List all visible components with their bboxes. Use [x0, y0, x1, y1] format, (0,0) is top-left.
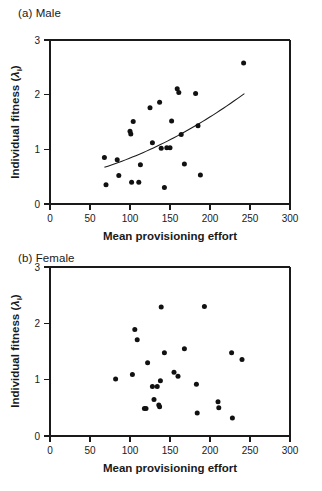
data-point — [157, 404, 162, 409]
data-point — [116, 173, 121, 178]
data-point — [128, 132, 133, 137]
x-tick-label: 150 — [162, 213, 179, 224]
data-point — [150, 140, 155, 145]
y-tick-label: 1 — [34, 144, 40, 155]
svg-text:Individual fitness (λi): Individual fitness (λi) — [9, 65, 24, 179]
data-point — [162, 185, 167, 190]
data-point — [179, 132, 184, 137]
x-tick-label: 150 — [162, 445, 179, 456]
data-point — [138, 162, 143, 167]
data-point — [157, 100, 162, 105]
lambda-symbol: λ — [9, 71, 21, 78]
y-ticks-male — [44, 40, 50, 204]
y-axis-title-close: ) — [9, 65, 21, 69]
scatter-plot-female: 0 50 100 150 200 250 300 0 1 2 3 Mean pr… — [0, 245, 322, 491]
data-point — [194, 382, 199, 387]
data-point — [152, 397, 157, 402]
x-tick-label: 50 — [84, 213, 96, 224]
x-tick-label: 0 — [47, 445, 53, 456]
x-tick-label: 0 — [47, 213, 53, 224]
x-tick-label: 300 — [282, 445, 299, 456]
data-point — [176, 374, 181, 379]
y-axis-title-close: ) — [9, 294, 21, 298]
x-axis-title-male: Mean provisioning effort — [103, 230, 237, 242]
data-point — [155, 384, 160, 389]
data-point — [148, 105, 153, 110]
data-point — [240, 357, 245, 362]
data-point — [115, 157, 120, 162]
panel-female: (b) Female 0 50 100 150 200 250 300 — [0, 245, 322, 491]
data-point — [136, 180, 141, 185]
lambda-symbol: λ — [9, 300, 21, 307]
data-points-female — [113, 304, 244, 421]
data-point — [216, 399, 221, 404]
x-tick-label: 100 — [122, 445, 139, 456]
data-point — [129, 180, 134, 185]
x-tick-label: 50 — [84, 445, 96, 456]
x-tick-label: 200 — [202, 445, 219, 456]
data-point — [172, 370, 177, 375]
y-ticks-female — [44, 267, 50, 436]
data-point — [169, 118, 174, 123]
svg-text:Individual fitness (λi): Individual fitness (λi) — [9, 294, 24, 408]
data-point — [195, 410, 200, 415]
data-point — [241, 60, 246, 65]
x-tick-label: 100 — [122, 213, 139, 224]
data-point — [159, 305, 164, 310]
y-tick-label: 3 — [34, 262, 40, 273]
y-tick-label: 0 — [34, 431, 40, 442]
data-point — [182, 162, 187, 167]
y-axis-title-text: Individual fitness ( — [9, 78, 21, 179]
x-ticks-male — [50, 204, 290, 210]
data-point — [158, 378, 163, 383]
y-tick-label: 2 — [34, 89, 40, 100]
data-point — [162, 350, 167, 355]
y-tick-label: 0 — [34, 199, 40, 210]
plot-frame-female — [50, 267, 290, 436]
data-point — [132, 327, 137, 332]
data-point — [168, 145, 173, 150]
data-point — [216, 405, 221, 410]
data-point — [196, 123, 201, 128]
data-point — [176, 90, 181, 95]
data-point — [113, 377, 118, 382]
y-axis-title-text: Individual fitness ( — [9, 307, 21, 408]
y-axis-title-female: Individual fitness (λi) — [9, 294, 24, 408]
data-point — [198, 173, 203, 178]
x-tick-label: 250 — [242, 445, 259, 456]
data-point — [202, 304, 207, 309]
x-tick-label: 250 — [242, 213, 259, 224]
data-point — [135, 337, 140, 342]
y-axis-title-male: Individual fitness (λi) — [9, 65, 24, 179]
x-tick-labels-female: 0 50 100 150 200 250 300 — [47, 445, 299, 456]
data-point — [193, 91, 198, 96]
y-tick-labels-female: 0 1 2 3 — [34, 262, 40, 442]
data-point — [130, 372, 135, 377]
data-point — [102, 155, 107, 160]
data-point — [182, 346, 187, 351]
x-tick-label: 200 — [202, 213, 219, 224]
data-point — [131, 119, 136, 124]
data-point — [229, 350, 234, 355]
y-tick-label: 1 — [34, 374, 40, 385]
x-axis-title-female: Mean provisioning effort — [103, 462, 237, 474]
data-point — [230, 415, 235, 420]
x-tick-label: 300 — [282, 213, 299, 224]
x-ticks-female — [50, 436, 290, 442]
data-point — [159, 146, 164, 151]
data-point — [150, 384, 155, 389]
data-point — [145, 360, 150, 365]
data-points-male — [102, 60, 246, 190]
y-tick-labels-male: 0 1 2 3 — [34, 35, 40, 210]
y-tick-label: 2 — [34, 318, 40, 329]
y-tick-label: 3 — [34, 35, 40, 46]
data-point — [104, 182, 109, 187]
scatter-plot-male: 0 50 100 150 200 250 300 0 1 2 3 Mean pr… — [0, 0, 322, 245]
fit-curve-male-group — [104, 94, 244, 168]
x-tick-labels-male: 0 50 100 150 200 250 300 — [47, 213, 299, 224]
panel-male: (a) Male 0 50 100 150 200 250 300 — [0, 0, 322, 245]
data-point — [144, 406, 149, 411]
